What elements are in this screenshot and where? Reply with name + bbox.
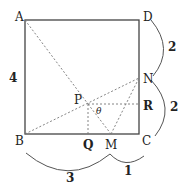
measure-mc: 1 [124, 164, 132, 178]
label-d: D [143, 10, 153, 24]
label-p: P [74, 93, 82, 107]
label-q: Q [83, 138, 93, 152]
line-ap [25, 20, 88, 104]
arc-mc [110, 154, 144, 163]
arc-bm [26, 153, 110, 171]
line-mn [111, 78, 139, 134]
square-abcd [25, 20, 139, 134]
label-r: R [143, 99, 154, 113]
label-b: B [15, 134, 24, 148]
measure-nc: 2 [170, 100, 178, 114]
label-a: A [14, 10, 24, 24]
measure-ab: 4 [9, 71, 17, 85]
dashed-lines [25, 20, 139, 134]
label-m: M [105, 138, 117, 152]
arc-nc [151, 80, 165, 136]
measure-bm: 3 [66, 171, 74, 185]
arc-dn [151, 20, 164, 76]
label-c: C [142, 134, 151, 148]
label-n: N [143, 72, 154, 86]
geometry-diagram: A D B C N P R Q M θ 4 2 2 3 1 [0, 0, 185, 196]
measure-dn: 2 [168, 40, 176, 54]
measure-arcs [26, 20, 165, 171]
angle-theta: θ [96, 106, 102, 116]
